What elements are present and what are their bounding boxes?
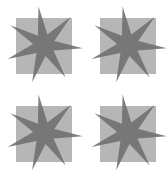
image-canvas bbox=[0, 0, 168, 176]
star-tile-graphic bbox=[0, 88, 84, 176]
star-tile-graphic bbox=[0, 0, 84, 88]
star-tile bbox=[84, 0, 168, 88]
star-tile-graphic bbox=[84, 88, 168, 176]
star-tile-grid bbox=[0, 0, 168, 176]
star-tile bbox=[0, 0, 84, 88]
star-tile bbox=[0, 88, 84, 176]
star-tile-graphic bbox=[84, 0, 168, 88]
star-tile bbox=[84, 88, 168, 176]
